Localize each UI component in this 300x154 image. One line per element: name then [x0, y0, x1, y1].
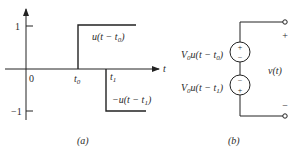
step-function-plot: t 1 −1 0 t0 t1 u(t − t0) −u(t − t1) (a): [5, 9, 166, 147]
step-neg-u-t1-label: −u(t − t1): [112, 94, 152, 107]
source-1-minus: −: [238, 53, 243, 62]
caption-b: (b): [228, 135, 240, 147]
y-tick-label-1: 1: [15, 21, 20, 32]
source-1-label: V0u(t − t0): [181, 49, 224, 62]
x-axis-label: t: [163, 63, 166, 74]
step-u-t0-label: u(t − t0): [92, 31, 125, 44]
output-plus: +: [282, 30, 288, 41]
origin-label: 0: [29, 73, 34, 84]
output-voltage-label: v(t): [268, 65, 283, 77]
top-wire: [240, 22, 283, 42]
circuit-diagram: + − − + V0u(t − t0) V0u(t − t1) + − v(t)…: [181, 20, 288, 147]
t1-mark-label: t1: [110, 71, 116, 84]
y-tick-label-neg1: −1: [11, 106, 22, 117]
bottom-terminal: [283, 114, 287, 118]
bottom-wire: [240, 95, 283, 116]
top-terminal: [283, 20, 287, 24]
t0-mark-label: t0: [74, 73, 81, 86]
output-minus: −: [282, 100, 288, 111]
source-2-plus: +: [238, 86, 243, 95]
source-2-label: V0u(t − t1): [181, 82, 224, 95]
source-2-minus: −: [238, 76, 243, 85]
figure: t 1 −1 0 t0 t1 u(t − t0) −u(t − t1) (a) …: [0, 0, 300, 154]
caption-a: (a): [77, 135, 89, 147]
source-1-plus: +: [238, 43, 243, 52]
